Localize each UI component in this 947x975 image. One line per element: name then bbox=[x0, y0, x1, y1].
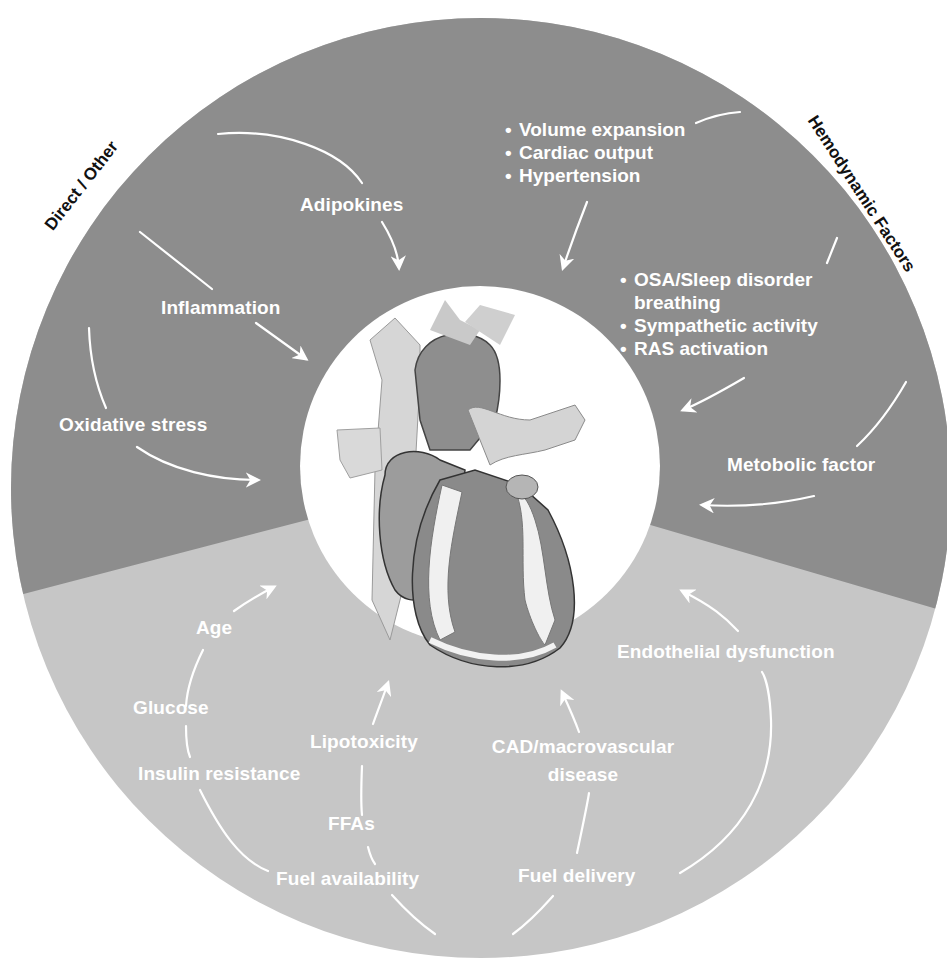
list-item: Volume expansion bbox=[505, 118, 685, 141]
list-neurohormonal: OSA/Sleep disorder breathing Sympathetic… bbox=[620, 268, 818, 360]
label-adipokines: Adipokines bbox=[300, 193, 403, 217]
list-item: RAS activation bbox=[620, 337, 818, 360]
list-item: Hypertension bbox=[505, 164, 685, 187]
label-ffas: FFAs bbox=[328, 812, 375, 836]
list-item: Cardiac output bbox=[505, 141, 685, 164]
label-metabolic-factor: Metobolic factor bbox=[727, 453, 875, 477]
label-glucose: Glucose bbox=[133, 696, 209, 720]
label-inflammation: Inflammation bbox=[161, 296, 280, 320]
list-item: Sympathetic activity bbox=[620, 314, 818, 337]
list-item: OSA/Sleep disorder bbox=[620, 268, 818, 291]
diagram-background bbox=[0, 0, 947, 975]
arc-lipo-ffa bbox=[361, 766, 362, 815]
list-item-continued: breathing bbox=[620, 291, 818, 314]
label-fuel-availability: Fuel availability bbox=[276, 867, 419, 891]
label-cad-line2: disease bbox=[478, 763, 688, 787]
label-cad-line1: CAD/macrovascular bbox=[478, 735, 688, 759]
label-age: Age bbox=[196, 616, 232, 640]
label-endothelial-dysfunction: Endothelial dysfunction bbox=[617, 640, 835, 664]
label-oxidative-stress: Oxidative stress bbox=[59, 413, 207, 437]
list-hemodynamic: Volume expansion Cardiac output Hyperten… bbox=[505, 118, 685, 187]
label-fuel-delivery: Fuel delivery bbox=[518, 864, 635, 888]
label-insulin-resistance: Insulin resistance bbox=[138, 762, 300, 786]
label-cad: CAD/macrovascular disease bbox=[478, 735, 688, 787]
label-lipotoxicity: Lipotoxicity bbox=[310, 730, 418, 754]
obesity-heart-diagram: Direct / Other Hemodynamic Factors Adipo… bbox=[0, 0, 947, 975]
